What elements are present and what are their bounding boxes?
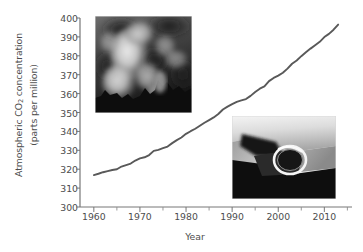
- x-axis-ticks: [94, 207, 348, 212]
- smokestack-emissions-photo: [95, 16, 192, 113]
- vehicle-exhaust-pipe-photo: [232, 116, 336, 199]
- co2-concentration-chart: Atmospheric CO2 concentration (parts per…: [0, 0, 363, 252]
